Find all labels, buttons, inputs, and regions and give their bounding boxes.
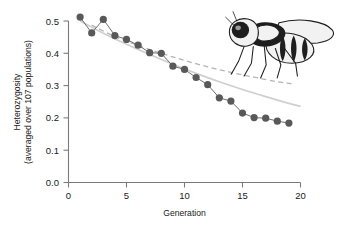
data-point: [262, 115, 269, 122]
data-point: [100, 16, 107, 23]
x-axis-title: Generation: [163, 208, 206, 218]
heterozygosity-decline-chart: 0.0 0.1 0.2 0.3 0.4 0.5 0 5 10 15: [0, 0, 340, 231]
y-tick-label-5: 0.5: [46, 16, 59, 27]
data-point: [135, 42, 142, 49]
chart-figure: 0.0 0.1 0.2 0.3 0.4 0.5 0 5 10 15: [0, 0, 340, 231]
data-point: [111, 32, 118, 39]
x-tick-label-10: 10: [179, 190, 190, 201]
y-tick-label-1: 0.1: [46, 145, 59, 156]
data-point: [204, 81, 211, 88]
y-axis-title-line1: Heterozygosity: [12, 73, 22, 131]
data-point: [193, 74, 200, 81]
data-point: [88, 29, 95, 36]
y-tick-label-3: 0.3: [46, 80, 59, 91]
data-point: [274, 118, 281, 125]
data-point: [158, 50, 165, 57]
data-point: [146, 49, 153, 56]
data-point: [239, 109, 246, 116]
data-point: [181, 66, 188, 73]
data-point: [123, 36, 130, 43]
x-tick-label-5: 5: [124, 190, 129, 201]
x-tick-label-20: 20: [295, 190, 306, 201]
data-point: [216, 94, 223, 101]
y-tick-label-2: 0.2: [46, 112, 59, 123]
data-point: [77, 14, 84, 21]
x-tick-label-15: 15: [237, 190, 248, 201]
y-axis-title-line2: (averaged over 107 populations): [23, 40, 33, 164]
y-tick-label-0: 0.0: [46, 177, 59, 188]
x-tick-label-0: 0: [66, 190, 71, 201]
data-point: [285, 119, 292, 126]
y-tick-label-4: 0.4: [46, 48, 59, 59]
data-point: [169, 63, 176, 70]
data-point: [251, 114, 258, 121]
data-point: [227, 98, 234, 105]
